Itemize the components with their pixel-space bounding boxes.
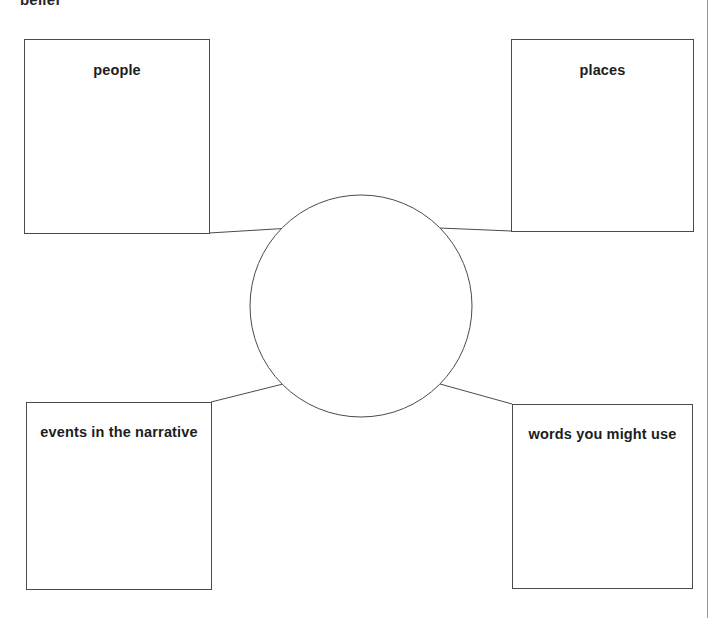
connector-people <box>209 229 284 234</box>
node-label-people: people <box>25 62 209 79</box>
node-box-events[interactable]: events in the narrative <box>26 402 212 590</box>
connector-words <box>440 384 512 404</box>
worksheet-page: belief people places events in the narra… <box>0 0 723 618</box>
node-label-events: events in the narrative <box>27 424 211 441</box>
node-label-places: places <box>512 62 693 79</box>
connector-places <box>440 228 512 231</box>
center-circle[interactable] <box>250 195 472 417</box>
connector-events <box>211 384 283 402</box>
node-label-words: words you might use <box>513 426 692 443</box>
node-box-words[interactable]: words you might use <box>512 404 693 589</box>
node-box-people[interactable]: people <box>24 39 210 234</box>
node-box-places[interactable]: places <box>511 39 694 232</box>
